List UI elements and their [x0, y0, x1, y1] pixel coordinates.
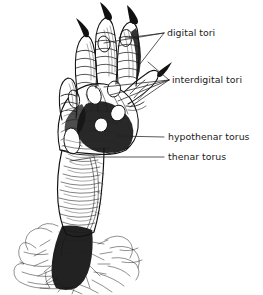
- paw-anatomy-figure: digital tori interdigital tori hypothena…: [0, 0, 263, 295]
- label-interdigital-tori: interdigital tori: [172, 74, 242, 85]
- paw-illustration-canvas: digital tori interdigital tori hypothena…: [0, 0, 263, 295]
- label-digital-tori: digital tori: [167, 27, 215, 38]
- label-thenar-torus: thenar torus: [168, 151, 226, 162]
- label-hypothenar-torus: hypothenar torus: [168, 131, 250, 142]
